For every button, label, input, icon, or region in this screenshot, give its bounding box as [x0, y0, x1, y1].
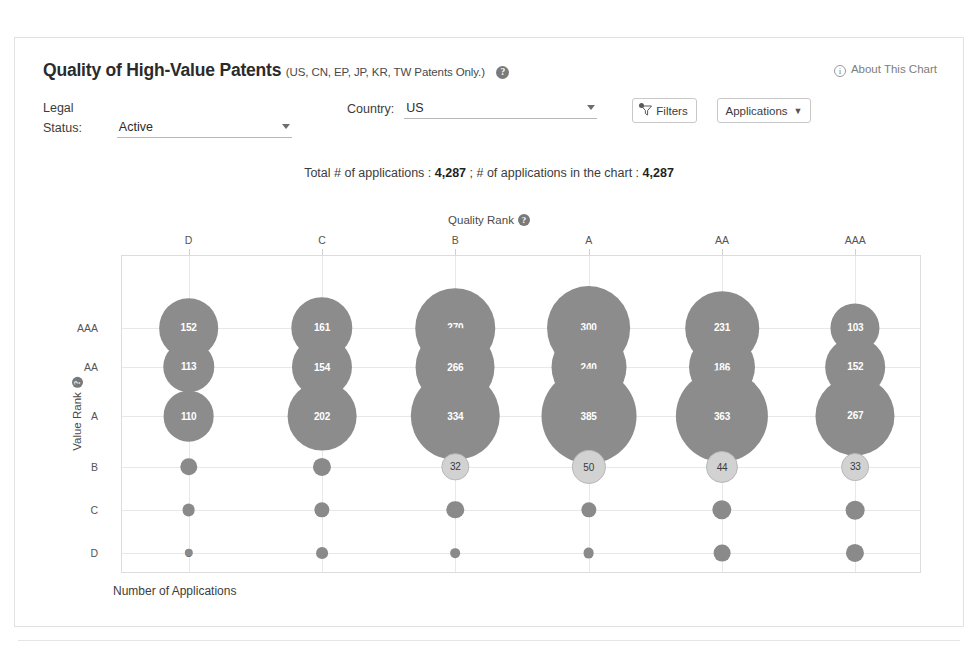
filters-label: Filters: [656, 105, 687, 117]
x-axis-tick-AA: AA: [715, 234, 729, 246]
totals-summary: Total # of applications : 4,287 ; # of a…: [15, 166, 963, 180]
page-root: Quality of High-Value Patents (US, CN, E…: [0, 0, 980, 651]
bubble-D-C[interactable]: [182, 504, 195, 517]
x-axis-tick-mark: [589, 249, 590, 255]
about-this-chart-link[interactable]: iAbout This Chart: [834, 63, 937, 77]
totals-inchart-value: 4,287: [643, 166, 674, 180]
applications-label: Applications: [726, 105, 788, 117]
chart-xlabel-number-of-applications: Number of Applications: [113, 584, 236, 598]
bubble-AA-A[interactable]: 363: [676, 370, 768, 462]
y-axis-tick-AAA: AAA: [77, 322, 98, 334]
gridline-horizontal: [122, 510, 920, 511]
bubble-AAA-B[interactable]: 33: [841, 453, 869, 481]
x-axis-tick-C: C: [318, 234, 326, 246]
country-value: US: [404, 101, 423, 115]
bubble-D-B[interactable]: [180, 458, 197, 475]
value-rank-help-icon[interactable]: ?: [72, 377, 83, 388]
x-axis-tick-mark: [322, 249, 323, 255]
chart-card: Quality of High-Value Patents (US, CN, E…: [14, 37, 964, 627]
about-label: About This Chart: [851, 63, 937, 75]
bubble-B-D[interactable]: [450, 548, 460, 558]
bubble-AA-D[interactable]: [714, 545, 731, 562]
title-subtitle: (US, CN, EP, JP, KR, TW Patents Only.): [286, 66, 485, 78]
y-axis-tick-C: C: [90, 504, 98, 516]
bubble-B-B[interactable]: 32: [442, 453, 469, 480]
bubble-B-A[interactable]: 334: [411, 372, 499, 460]
page-title: Quality of High-Value Patents (US, CN, E…: [43, 60, 509, 81]
totals-middle: ; # of applications in the chart :: [466, 166, 643, 180]
x-axis-tick-mark: [189, 249, 190, 255]
bubble-D-A[interactable]: 110: [163, 391, 214, 442]
bubble-AA-B[interactable]: 44: [706, 451, 738, 483]
x-axis-tick-D: D: [185, 234, 193, 246]
gridline-horizontal: [122, 367, 920, 368]
bubble-D-AA[interactable]: 113: [163, 341, 214, 392]
y-axis-tick-D: D: [90, 547, 98, 559]
bubble-B-C[interactable]: [447, 501, 464, 518]
legal-status-control: Legal Status: Active: [43, 98, 292, 138]
x-axis-tick-A: A: [585, 234, 592, 246]
bubble-A-D[interactable]: [583, 548, 594, 559]
title-text: Quality of High-Value Patents: [43, 60, 281, 80]
x-axis-tick-mark: [722, 249, 723, 255]
chevron-down-icon: [587, 105, 595, 110]
filters-button[interactable]: Filters: [632, 98, 697, 123]
gridline-horizontal: [122, 328, 920, 329]
chart-axis-title-value-rank: Value Rank?: [71, 377, 83, 451]
info-icon: i: [834, 65, 846, 77]
bubble-chart-plot: DCBAAAAAAAAAAAABCD1521612703002311031131…: [121, 255, 921, 573]
value-rank-label: Value Rank: [71, 392, 83, 451]
bubble-AA-C[interactable]: [712, 500, 731, 519]
chart-axis-title-quality-rank: Quality Rank?: [15, 214, 963, 226]
bubble-D-D[interactable]: [184, 549, 192, 557]
country-select[interactable]: US: [404, 98, 597, 119]
chevron-down-icon: [282, 124, 290, 129]
y-axis-tick-B: B: [91, 461, 98, 473]
legal-status-label: Legal Status:: [43, 98, 107, 138]
bubble-AAA-C[interactable]: [846, 501, 865, 520]
bubble-C-B[interactable]: [313, 458, 331, 476]
legal-status-select[interactable]: Active: [117, 117, 292, 138]
quality-rank-help-icon[interactable]: ?: [518, 214, 530, 226]
x-axis-tick-B: B: [452, 234, 459, 246]
gridline-horizontal: [122, 553, 920, 554]
x-axis-tick-AAA: AAA: [845, 234, 866, 246]
bubble-C-D[interactable]: [316, 547, 328, 559]
title-help-icon[interactable]: ?: [496, 66, 509, 79]
bubble-A-B[interactable]: 50: [572, 450, 606, 484]
bubble-AAA-D[interactable]: [846, 544, 864, 562]
totals-total-value: 4,287: [435, 166, 466, 180]
gridline-horizontal: [122, 467, 920, 468]
applications-button[interactable]: Applications ▼: [717, 98, 811, 123]
country-control: Country: US: [347, 98, 597, 119]
totals-prefix: Total # of applications :: [304, 166, 435, 180]
bubble-C-A[interactable]: 202: [288, 382, 357, 451]
country-label: Country:: [347, 99, 394, 119]
legal-status-value: Active: [117, 120, 153, 134]
bubble-A-C[interactable]: [581, 502, 596, 517]
chevron-down-icon: ▼: [794, 106, 803, 116]
x-axis-tick-mark: [855, 249, 856, 255]
quality-rank-label: Quality Rank: [448, 214, 514, 226]
gridline-horizontal: [122, 416, 920, 417]
y-axis-tick-A: A: [91, 410, 98, 422]
x-axis-tick-mark: [455, 249, 456, 255]
y-axis-tick-AA: AA: [84, 361, 98, 373]
filter-icon: [641, 105, 652, 116]
scan-artifact-bottom: [18, 640, 960, 641]
bubble-AAA-A[interactable]: 267: [816, 376, 895, 455]
bubble-C-C[interactable]: [314, 502, 329, 517]
